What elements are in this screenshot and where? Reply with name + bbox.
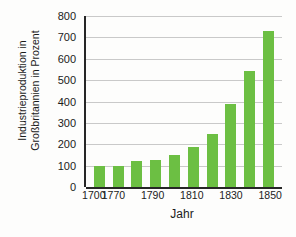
- y-tick-label-400: 400: [58, 96, 76, 108]
- bar-1790: [150, 160, 161, 187]
- y-axis-tick-labels: 8007006005004003002001000: [0, 0, 84, 200]
- y-tick-label-500: 500: [58, 74, 76, 86]
- x-tick-label-1850: 1850: [259, 189, 282, 201]
- y-tick-label-700: 700: [58, 31, 76, 43]
- bar-1830: [225, 104, 236, 187]
- x-tick-label-1810: 1810: [180, 189, 203, 201]
- y-tick-label-800: 800: [58, 10, 76, 22]
- bar-1820: [207, 134, 218, 187]
- bar-1780: [131, 161, 142, 187]
- x-axis-tick-labels: 170017701790181018301850: [84, 189, 280, 205]
- bar-1850: [263, 31, 274, 187]
- x-tick-label-1830: 1830: [219, 189, 242, 201]
- y-tick-label-200: 200: [58, 138, 76, 150]
- bar-1800: [169, 155, 180, 187]
- y-tick-label-300: 300: [58, 117, 76, 129]
- y-tick-label-600: 600: [58, 53, 76, 65]
- x-tick-label-1790: 1790: [141, 189, 164, 201]
- plot-area: [84, 16, 282, 187]
- bar-1700: [94, 166, 105, 187]
- y-tick-label-0: 0: [70, 181, 76, 193]
- y-tick-label-100: 100: [58, 160, 76, 172]
- bar-chart: Industrieproduktion in Großbritannien in…: [0, 0, 296, 237]
- bar-1810: [188, 147, 199, 187]
- x-tick-label-1770: 1770: [102, 189, 125, 201]
- bar-series: [86, 16, 282, 187]
- bar-1770: [113, 166, 124, 187]
- bar-1840: [244, 71, 255, 187]
- x-axis-title: Jahr: [84, 207, 280, 221]
